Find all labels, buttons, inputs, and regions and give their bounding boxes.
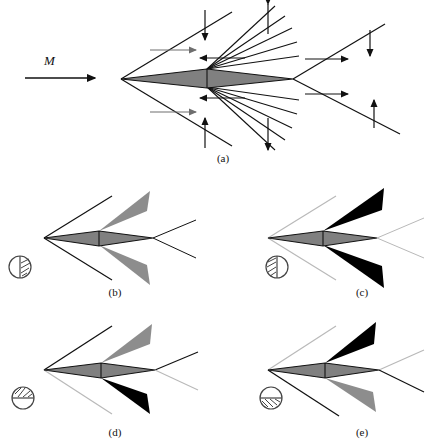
panel-c-caption: (c) [342,286,382,298]
trailing-edge-shocks [155,352,198,390]
diamond-airfoil [121,69,293,88]
lower-expansion-fan [207,87,299,150]
upper-expansion-fan-wedge [323,188,384,231]
panel-b: (b) [0,178,223,308]
upper-expansion-fan-wedge [99,191,150,231]
panel-a-canvas [0,0,447,170]
diamond-airfoil [44,231,153,246]
circle-horizontal-split-bottom-hatched-icon [260,387,282,409]
panel-a-caption: (a) [203,152,243,164]
trailing-edge-shocks [377,218,424,258]
panel-c-canvas [224,178,447,308]
lower-expansion-fan-wedge [325,378,376,412]
lower-expansion-fan-wedge [99,245,150,285]
circle-horizontal-split-top-hatched-icon [12,387,34,409]
panel-e-canvas [224,308,447,447]
circle-vertical-split-left-hatched-icon [266,256,288,278]
diamond-airfoil [268,363,379,378]
panel-a: M (a) [0,0,447,170]
lower-expansion-fan-wedge [323,245,384,288]
upper-expansion-fan [207,6,299,69]
trailing-edge-shocks [153,220,196,258]
upper-expansion-fan-wedge [101,324,152,363]
panel-b-caption: (b) [95,286,135,298]
panel-c: (c) [224,178,447,308]
panel-e-caption: (e) [342,426,382,438]
figure-root: M (a) [0,0,447,447]
panel-e: (e) [224,308,447,447]
trailing-edge-shocks [293,24,400,134]
freestream-mach-label: M [44,53,55,69]
panel-d: (d) [0,308,223,447]
panel-d-caption: (d) [95,426,135,438]
trailing-edge-shocks [379,350,424,392]
lower-expansion-fan-wedge [101,378,150,414]
circle-vertical-split-right-hatched-icon [9,256,31,278]
diamond-airfoil [268,231,377,246]
diamond-airfoil [44,363,155,378]
